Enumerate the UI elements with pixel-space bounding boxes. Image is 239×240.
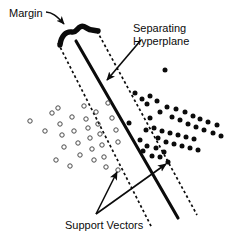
- hyperplane-label-line2: Hyperplane: [133, 35, 189, 47]
- filled-dot-marker: [194, 125, 199, 130]
- svm-diagram: Margin SeparatingHyperplane Support Vect…: [0, 0, 239, 240]
- filled-dot-marker: [158, 110, 163, 115]
- filled-dot-marker: [148, 94, 153, 99]
- filled-dot-marker: [198, 117, 203, 122]
- filled-dot-marker: [155, 99, 160, 104]
- filled-dot-marker: [162, 150, 167, 155]
- filled-dot-marker: [196, 148, 201, 153]
- filled-dot-marker: [184, 135, 189, 140]
- filled-dot-marker: [145, 144, 150, 149]
- filled-dot-marker: [172, 142, 177, 147]
- filled-dot-marker: [160, 129, 165, 134]
- svm-plot-canvas: [0, 0, 239, 240]
- filled-dot-marker: [191, 114, 196, 119]
- support-vectors-label: Support Vectors: [65, 219, 143, 232]
- filled-dot-marker: [156, 136, 161, 141]
- filled-dot-marker: [170, 115, 175, 120]
- filled-dot-marker: [215, 123, 220, 128]
- filled-dot-marker: [211, 131, 216, 136]
- filled-dot-marker: [202, 128, 207, 133]
- separating-hyperplane-label: SeparatingHyperplane: [133, 22, 189, 47]
- filled-dot-marker: [145, 102, 150, 107]
- hyperplane-label-line1: Separating: [133, 22, 186, 34]
- filled-dot-marker: [150, 154, 155, 159]
- filled-dot-marker: [168, 131, 173, 136]
- filled-dot-marker: [158, 155, 163, 160]
- filled-dot-marker: [219, 134, 224, 139]
- filled-dot-marker: [176, 133, 181, 138]
- filled-dot-marker: [141, 149, 146, 154]
- margin-label: Margin: [9, 7, 43, 20]
- filled-dot-marker: [138, 138, 143, 143]
- filled-dot-marker: [206, 120, 211, 125]
- filled-dot-marker: [133, 91, 138, 96]
- filled-dot-marker: [154, 146, 159, 151]
- filled-dot-marker: [163, 68, 168, 73]
- filled-dot-marker: [180, 144, 185, 149]
- filled-dot-marker: [165, 105, 170, 110]
- filled-dot-marker: [152, 126, 157, 131]
- filled-dot-marker: [148, 116, 153, 121]
- filled-dot-marker: [192, 137, 197, 142]
- filled-dot-marker: [127, 121, 132, 126]
- filled-dot-marker: [144, 128, 149, 133]
- filled-dot-marker: [178, 118, 183, 123]
- filled-dot-marker: [186, 122, 191, 127]
- filled-dot-marker: [188, 146, 193, 151]
- plot-background: [0, 0, 239, 240]
- filled-dot-marker: [183, 110, 188, 115]
- filled-dot-marker: [166, 160, 171, 165]
- filled-dot-marker: [174, 107, 179, 112]
- filled-dot-marker: [164, 140, 169, 145]
- filled-dot-marker: [140, 97, 145, 102]
